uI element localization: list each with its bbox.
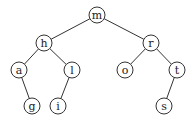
tree-node-g: g	[24, 98, 40, 114]
tree-node-a: a	[11, 62, 27, 78]
edge-a-g	[22, 78, 30, 99]
tree-nodes: mhralotgis	[11, 7, 185, 114]
node-label: t	[175, 64, 180, 77]
tree-node-l: l	[64, 62, 80, 78]
node-label: g	[28, 100, 35, 113]
edge-r-t	[157, 49, 172, 64]
tree-diagram: mhralotgis	[0, 0, 196, 122]
node-label: a	[16, 64, 23, 77]
tree-node-r: r	[143, 35, 159, 51]
edge-h-l	[50, 49, 66, 65]
tree-node-h: h	[36, 35, 52, 51]
edge-l-i	[61, 77, 69, 98]
edge-h-a	[24, 49, 38, 64]
tree-node-t: t	[169, 62, 185, 78]
node-label: o	[122, 64, 129, 77]
node-label: s	[161, 100, 167, 113]
tree-edges	[22, 19, 175, 99]
edge-r-o	[131, 49, 146, 64]
tree-node-i: i	[50, 98, 66, 114]
node-label: m	[92, 9, 103, 22]
tree-node-s: s	[156, 98, 172, 114]
node-label: i	[56, 100, 60, 113]
edge-m-h	[51, 19, 90, 40]
node-label: l	[70, 64, 74, 77]
edge-m-r	[104, 19, 144, 40]
edge-t-s	[167, 78, 175, 99]
node-label: r	[148, 37, 154, 50]
node-label: h	[40, 37, 47, 50]
tree-node-m: m	[89, 7, 105, 23]
tree-node-o: o	[117, 62, 133, 78]
